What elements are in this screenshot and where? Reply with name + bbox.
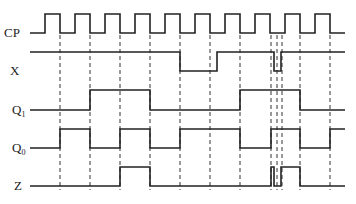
waveform-q0 bbox=[30, 129, 345, 148]
label-q0: Q0 bbox=[12, 140, 25, 157]
waveform-x bbox=[30, 52, 345, 71]
waveforms bbox=[30, 14, 345, 186]
waveform-z bbox=[30, 167, 345, 186]
label-z: Z bbox=[14, 178, 22, 193]
waveform-q1 bbox=[30, 90, 345, 110]
waveform-cp bbox=[30, 14, 345, 33]
label-x: X bbox=[10, 63, 20, 78]
timing-diagram: CP X Q1 Q0 Z bbox=[0, 0, 356, 204]
label-cp: CP bbox=[4, 25, 20, 40]
signal-labels: CP X Q1 Q0 Z bbox=[4, 25, 25, 193]
label-q1: Q1 bbox=[12, 102, 25, 119]
